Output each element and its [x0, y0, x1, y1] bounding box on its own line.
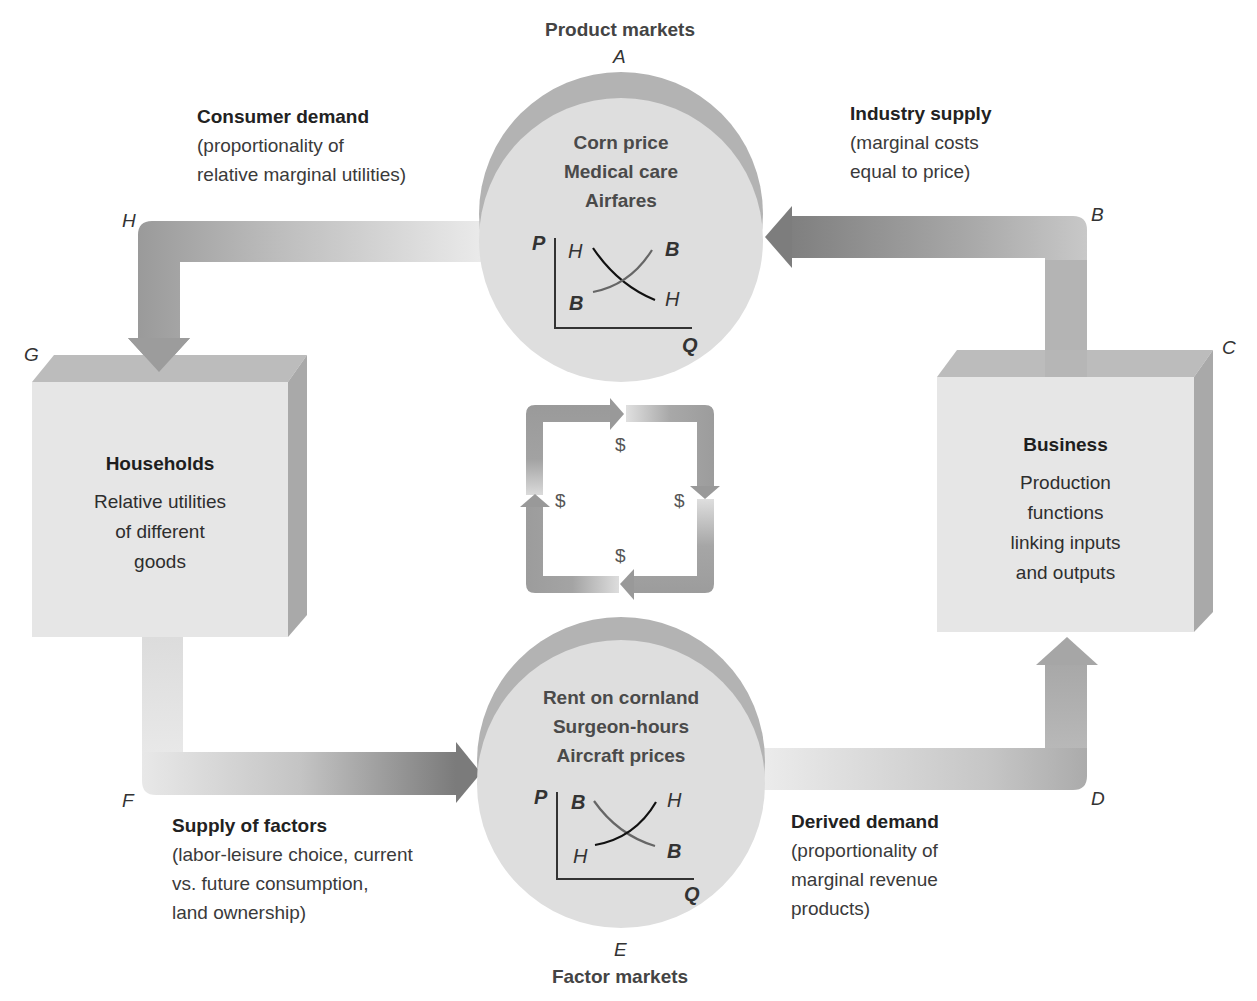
factor-item: Rent on cornland [501, 683, 741, 712]
supply-of-factors-line: land ownership) [172, 898, 413, 927]
business-line: functions [937, 498, 1194, 528]
derived-demand-arrow [755, 637, 1098, 790]
factor-graph-h-start: H [573, 845, 587, 868]
factor-markets-title: Factor markets [500, 966, 740, 988]
industry-supply-line: equal to price) [850, 157, 991, 186]
factor-graph-h-end: H [667, 789, 681, 812]
letter-g: G [24, 344, 39, 366]
derived-demand-line: marginal revenue [791, 865, 939, 894]
letter-f: F [122, 790, 134, 812]
factor-market-items: Rent on cornland Surgeon-hours Aircraft … [501, 683, 741, 770]
product-graph-y-axis: P [532, 232, 545, 255]
business-text: Business Production functions linking in… [937, 430, 1194, 588]
consumer-demand-line: (proportionality of [197, 131, 406, 160]
letter-b: B [1091, 204, 1104, 226]
industry-supply-label: Industry supply (marginal costs equal to… [850, 99, 991, 186]
product-market-items: Corn price Medical care Airfares [501, 128, 741, 215]
product-graph-x-axis: Q [682, 334, 698, 357]
consumer-demand-label: Consumer demand (proportionality of rela… [197, 102, 406, 189]
product-item: Airfares [501, 186, 741, 215]
letter-h: H [122, 210, 136, 232]
product-item: Medical care [501, 157, 741, 186]
consumer-demand-line: relative marginal utilities) [197, 160, 406, 189]
product-markets-title: Product markets [500, 19, 740, 41]
supply-of-factors-label: Supply of factors (labor-leisure choice,… [172, 811, 413, 927]
product-graph-h-start: H [568, 240, 582, 263]
dollar-icon-top: $ [615, 434, 626, 456]
factor-graph-b-end: B [667, 840, 681, 863]
dollar-icon-bottom: $ [615, 545, 626, 567]
derived-demand-line: (proportionality of [791, 836, 939, 865]
letter-e: E [614, 939, 627, 961]
business-line: Production [937, 468, 1194, 498]
derived-demand-title: Derived demand [791, 807, 939, 836]
households-title: Households [32, 449, 288, 479]
product-graph-b-end: B [665, 238, 679, 261]
product-graph-h-end: H [665, 288, 679, 311]
factor-graph-y-axis: P [534, 786, 547, 809]
derived-demand-line: products) [791, 894, 939, 923]
households-line: of different [32, 517, 288, 547]
factor-item: Aircraft prices [501, 741, 741, 770]
supply-of-factors-title: Supply of factors [172, 811, 413, 840]
households-line: goods [32, 547, 288, 577]
supply-of-factors-arrow [142, 637, 481, 803]
letter-c: C [1222, 337, 1236, 359]
dollar-icon-right: $ [674, 490, 685, 512]
industry-supply-arrow [765, 206, 1087, 352]
product-market-disc [479, 72, 763, 382]
product-item: Corn price [501, 128, 741, 157]
letter-a: A [613, 46, 626, 68]
supply-of-factors-line: vs. future consumption, [172, 869, 413, 898]
consumer-demand-title: Consumer demand [197, 102, 406, 131]
factor-graph-b-start: B [571, 791, 585, 814]
supply-of-factors-line: (labor-leisure choice, current [172, 840, 413, 869]
industry-supply-line: (marginal costs [850, 128, 991, 157]
dollar-icon-left: $ [555, 490, 566, 512]
households-line: Relative utilities [32, 487, 288, 517]
factor-item: Surgeon-hours [501, 712, 741, 741]
factor-market-disc [477, 617, 765, 928]
money-loop [520, 398, 720, 600]
factor-graph-x-axis: Q [684, 883, 700, 906]
business-title: Business [937, 430, 1194, 460]
derived-demand-label: Derived demand (proportionality of margi… [791, 807, 939, 923]
letter-d: D [1091, 788, 1105, 810]
consumer-demand-arrow [128, 221, 490, 372]
industry-supply-title: Industry supply [850, 99, 991, 128]
business-line: linking inputs [937, 528, 1194, 558]
households-text: Households Relative utilities of differe… [32, 449, 288, 577]
product-graph-b-start: B [569, 292, 583, 315]
business-line: and outputs [937, 558, 1194, 588]
